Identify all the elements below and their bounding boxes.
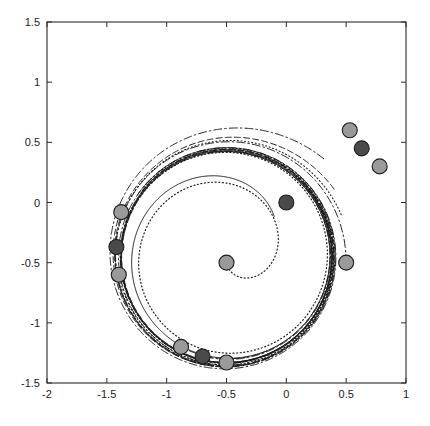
marker-ur-1	[342, 123, 357, 138]
marker-bottom-2	[195, 349, 210, 364]
marker-left-2	[109, 240, 124, 255]
x-tick-label: 1	[403, 388, 409, 400]
marker-left-3	[111, 267, 126, 282]
y-tick-label: -1	[30, 317, 40, 329]
x-tick-label: 0.5	[339, 388, 354, 400]
y-tick-label: -0.5	[21, 257, 40, 269]
marker-bottom-1	[174, 339, 189, 354]
marker-center-right	[339, 255, 354, 270]
y-tick-label: 0.5	[25, 136, 40, 148]
x-tick-label: -1.5	[97, 388, 116, 400]
marker-bottom-3	[219, 355, 234, 370]
marker-center-left	[219, 255, 234, 270]
plot-canvas: -2-1.5-1-0.500.51-1.5-1-0.500.511.5	[0, 0, 430, 426]
marker-ur-3	[372, 159, 387, 174]
x-tick-label: -2	[42, 388, 52, 400]
axes-group	[47, 22, 406, 383]
y-tick-label: 1	[34, 76, 40, 88]
x-tick-label: -0.5	[217, 388, 236, 400]
figure-container: -2-1.5-1-0.500.51-1.5-1-0.500.511.5	[0, 0, 430, 426]
x-tick-label: 0	[283, 388, 289, 400]
y-tick-label: 1.5	[25, 16, 40, 28]
marker-left-1	[114, 205, 129, 220]
y-tick-label: -1.5	[21, 377, 40, 389]
marker-origin	[279, 195, 294, 210]
trajectory-group	[110, 128, 346, 369]
y-tick-label: 0	[34, 197, 40, 209]
tick-label-group: -2-1.5-1-0.500.51-1.5-1-0.500.511.5	[21, 16, 409, 400]
x-tick-label: -1	[162, 388, 172, 400]
axes-box	[47, 22, 406, 383]
marker-ur-2	[354, 141, 369, 156]
